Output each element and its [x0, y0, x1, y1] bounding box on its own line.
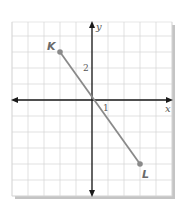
x-axis-label: x: [165, 103, 171, 114]
point-k-label: K: [47, 40, 57, 53]
coordinate-plane: x y 1 2 K L: [0, 0, 184, 213]
point-l-marker: [137, 161, 143, 167]
x-tick-label-1: 1: [103, 103, 109, 113]
point-k-marker: [57, 49, 63, 55]
y-axis-label: y: [95, 21, 102, 32]
point-l-label: L: [142, 168, 149, 181]
y-tick-label-2: 2: [83, 63, 89, 73]
